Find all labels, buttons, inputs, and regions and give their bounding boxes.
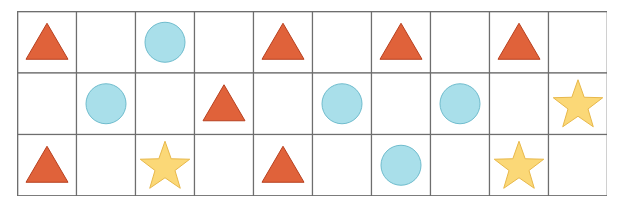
grid-cell: [549, 135, 608, 197]
circle-shape: [381, 145, 421, 185]
grid-cell: [77, 135, 136, 197]
circle-shape: [440, 84, 480, 124]
grid-cell: [77, 12, 136, 74]
grid-cell: [313, 12, 372, 74]
grid-cell: [372, 73, 431, 135]
circle-shape: [145, 22, 185, 62]
grid-cell: [136, 73, 195, 135]
circle-shape: [86, 84, 126, 124]
grid-cell: [490, 73, 549, 135]
grid-cell: [18, 73, 77, 135]
grid-cell: [195, 135, 254, 197]
grid-cell: [549, 12, 608, 74]
grid-cell: [313, 135, 372, 197]
shape-grid: [17, 11, 607, 196]
grid-cell: [254, 73, 313, 135]
grid-cell: [431, 135, 490, 197]
grid-cell: [195, 12, 254, 74]
grid-cell: [431, 12, 490, 74]
circle-shape: [322, 84, 362, 124]
